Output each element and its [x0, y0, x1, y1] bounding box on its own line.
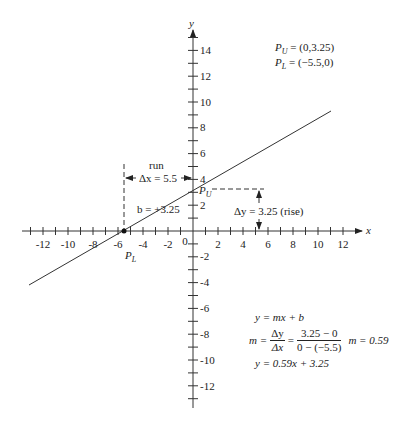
svg-text:-6: -6 — [200, 302, 210, 314]
svg-text:-8: -8 — [200, 328, 210, 340]
y-tick-labels: 14 12 10 8 6 4 2 -2 -4 -6 -8 -10 -12 — [200, 44, 215, 392]
point-lower-marker — [122, 229, 127, 234]
svg-text:-10: -10 — [61, 238, 76, 250]
point-lower-label: PL — [125, 250, 136, 261]
equation-general: y = mx + b — [255, 312, 304, 323]
svg-text:12: 12 — [200, 70, 211, 82]
equation-slope: m = Δy Δx = 3.25 − 0 0 − (−5.5) m = 0.59 — [249, 328, 389, 353]
intercept-label: b = +3.25 — [137, 204, 180, 215]
svg-text:-4: -4 — [200, 276, 210, 288]
svg-text:8: 8 — [290, 238, 296, 250]
svg-text:2: 2 — [200, 199, 206, 211]
plotted-line — [29, 111, 331, 285]
svg-text:4: 4 — [240, 238, 246, 250]
x-axis-label: x — [365, 224, 371, 236]
equation-result: y = 0.59x + 3.25 — [255, 358, 329, 369]
x-tick-labels: -12 -10 -8 -6 -4 -2 0 2 4 6 8 10 12 — [36, 235, 349, 250]
slope-numeric-fraction: 3.25 − 0 0 − (−5.5) — [297, 328, 341, 353]
svg-text:-2: -2 — [200, 250, 209, 262]
svg-text:8: 8 — [200, 121, 206, 133]
delta-y-label: Δy = 3.25 (rise) — [234, 206, 304, 217]
point-lower-definition: PL = (−5.5,0) — [275, 57, 333, 68]
run-label: run — [149, 160, 164, 171]
point-upper-label: PU — [199, 185, 212, 196]
coordinate-plane: -12 -10 -8 -6 -4 -2 0 2 4 6 8 10 12 14 1… — [0, 0, 401, 431]
svg-text:-10: -10 — [200, 354, 215, 366]
point-upper-definition: PU = (0,3.25) — [275, 42, 334, 53]
svg-text:-6: -6 — [113, 238, 123, 250]
slope-symbolic-fraction: Δy Δx — [270, 328, 285, 353]
svg-text:-2: -2 — [163, 238, 172, 250]
svg-text:12: 12 — [338, 238, 349, 250]
svg-text:14: 14 — [200, 44, 212, 56]
svg-text:6: 6 — [200, 147, 206, 159]
svg-text:0: 0 — [182, 235, 188, 247]
svg-text:-12: -12 — [36, 238, 51, 250]
svg-text:10: 10 — [200, 96, 212, 108]
svg-text:6: 6 — [265, 238, 271, 250]
svg-text:-4: -4 — [138, 238, 148, 250]
y-axis-label: y — [188, 17, 194, 29]
delta-x-label: Δx = 5.5 — [139, 173, 177, 184]
svg-text:2: 2 — [215, 238, 221, 250]
svg-text:10: 10 — [313, 238, 325, 250]
svg-text:-12: -12 — [200, 380, 215, 392]
